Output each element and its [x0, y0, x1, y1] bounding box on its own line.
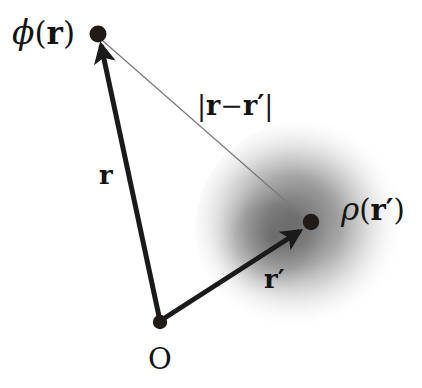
- rho-symbol: ρ: [341, 191, 359, 227]
- dist-vector-r: r: [206, 90, 220, 121]
- phi-open-paren: (: [35, 15, 47, 51]
- dist-bar-left: |: [197, 90, 206, 121]
- label-phi-r: ϕ(r): [12, 16, 75, 49]
- phi-close-paren: ): [63, 15, 75, 51]
- label-rho-r-prime: ρ(r′): [341, 194, 405, 225]
- label-origin: O: [148, 345, 172, 374]
- label-separation-distance: |r−r′|: [197, 92, 273, 119]
- label-vector-r: r: [99, 162, 113, 188]
- physics-diagram-figure: ϕ(r) |r−r′| ρ(r′) r r′ O: [0, 0, 422, 388]
- vector-r-prime-letter: r: [264, 264, 278, 294]
- rho-vector-r: r: [371, 193, 386, 227]
- phi-symbol: ϕ: [12, 13, 35, 52]
- rho-open-paren: (: [359, 193, 370, 227]
- vector-r-prime-mark: ′: [278, 264, 285, 294]
- rho-close-paren: ): [394, 193, 405, 227]
- dist-minus-sign: −: [220, 90, 243, 121]
- dist-vector-r-prime: r: [243, 90, 257, 121]
- origin-point-dot: [153, 315, 167, 329]
- rho-prime-mark: ′: [386, 193, 394, 227]
- source-point-dot: [303, 214, 319, 230]
- label-vector-r-prime: r′: [264, 266, 285, 292]
- dist-bar-right: |: [264, 90, 273, 121]
- field-point-dot: [90, 26, 107, 43]
- phi-vector-r: r: [47, 15, 63, 51]
